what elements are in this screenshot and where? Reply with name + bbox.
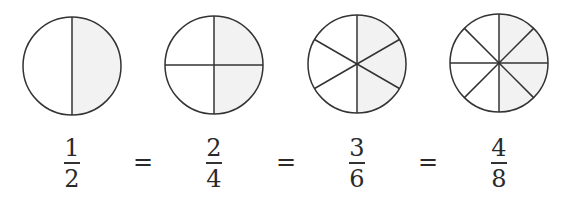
equals-sign: = — [271, 148, 301, 176]
fraction-four-eighths: 4 8 — [479, 136, 519, 191]
circle-eighths — [450, 14, 548, 112]
equals-sign: = — [413, 148, 443, 176]
fraction-three-sixths: 3 6 — [337, 136, 377, 191]
fraction-two-fourths: 2 4 — [194, 136, 234, 191]
fraction-bar — [206, 162, 222, 164]
equals-sign: = — [128, 148, 158, 176]
denominator: 6 — [337, 167, 377, 191]
circle-sixths — [308, 15, 406, 113]
fraction-bar — [64, 162, 80, 164]
fraction-one-half: 1 2 — [52, 136, 92, 191]
denominator: 2 — [52, 167, 92, 191]
numerator: 3 — [337, 136, 377, 160]
numerator: 1 — [52, 136, 92, 160]
numerator: 4 — [479, 136, 519, 160]
fraction-bar — [491, 162, 507, 164]
circle-halves — [23, 17, 121, 115]
circle-quarters — [165, 16, 263, 114]
denominator: 8 — [479, 167, 519, 191]
fraction-bar — [349, 162, 365, 164]
denominator: 4 — [194, 167, 234, 191]
numerator: 2 — [194, 136, 234, 160]
